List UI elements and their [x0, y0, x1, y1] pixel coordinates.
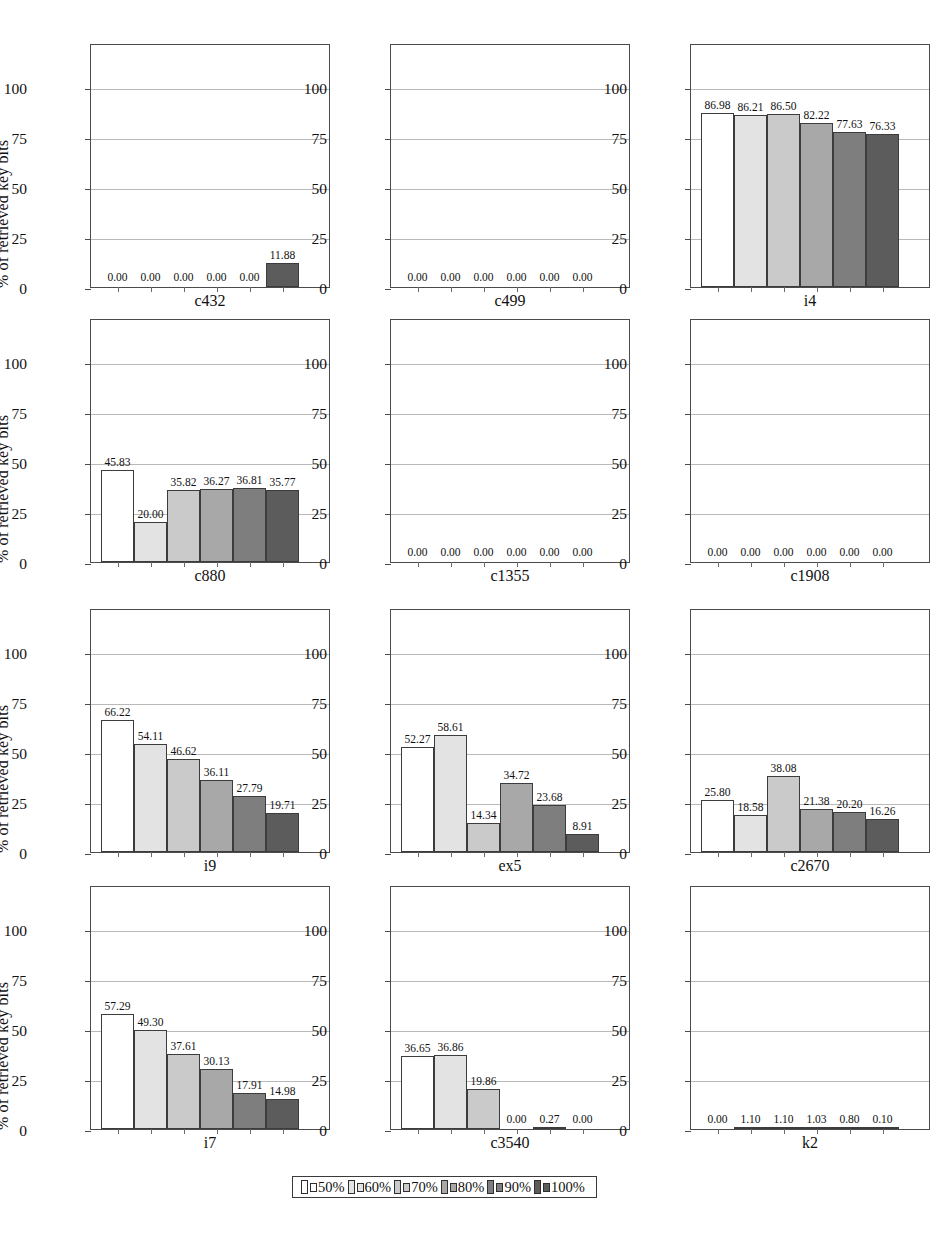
y-tick-mark	[85, 289, 91, 290]
chart-panel-i7: % of retrieved key bits025507510057.2949…	[0, 872, 300, 1162]
chart-panel-i4: 025507510086.9886.2186.5082.2277.6376.33…	[600, 30, 900, 320]
legend-swatch	[487, 1180, 494, 1194]
bar	[134, 744, 167, 852]
y-tick-label: 0	[0, 1122, 27, 1140]
legend-swatch-small	[496, 1183, 503, 1192]
chart-panel-ex5: 025507510052.2758.6114.3434.7223.688.91e…	[300, 595, 600, 885]
bar	[734, 115, 767, 287]
bar-value-label: 0.00	[206, 271, 226, 283]
legend-swatch-pair	[534, 1180, 550, 1194]
bar-value-label: 0.27	[539, 1113, 559, 1125]
bar-value-label: 0.00	[707, 546, 727, 558]
bar-value-label: 27.79	[237, 782, 263, 794]
bar-value-label: 17.91	[237, 1079, 263, 1091]
bar	[167, 1054, 200, 1129]
bar	[233, 488, 266, 562]
y-tick-label: 100	[0, 80, 27, 98]
y-tick-mark	[385, 854, 391, 855]
bar-value-label: 86.98	[705, 99, 731, 111]
y-tick-label: 25	[0, 230, 27, 248]
bar	[701, 800, 734, 852]
y-tick-label: 75	[283, 405, 327, 423]
y-tick-mark	[685, 564, 691, 565]
bar	[467, 1089, 500, 1129]
bar-value-label: 0.00	[239, 271, 259, 283]
bar	[533, 805, 566, 852]
bar-value-label: 82.22	[804, 109, 830, 121]
bar	[500, 783, 533, 852]
bar-value-label: 14.34	[471, 809, 497, 821]
bar	[200, 780, 233, 852]
legend-label: 50%	[318, 1180, 345, 1195]
bar-value-label: 0.80	[839, 1113, 859, 1125]
bar-value-label: 18.58	[738, 801, 764, 813]
y-tick-label: 25	[0, 1072, 27, 1090]
bar	[833, 132, 866, 287]
bar-series: 0.001.101.101.030.800.10	[691, 887, 929, 1129]
y-tick-label: 100	[583, 922, 627, 940]
y-tick-label: 100	[283, 922, 327, 940]
bar	[866, 134, 899, 287]
y-tick-label: 25	[583, 505, 627, 523]
bar	[134, 522, 167, 562]
y-tick-label: 0	[283, 280, 327, 298]
bar	[200, 1069, 233, 1129]
bar	[233, 796, 266, 852]
legend-entry-80: 80%	[441, 1180, 488, 1195]
y-tick-mark	[385, 1131, 391, 1132]
bar	[434, 735, 467, 852]
bar	[101, 1014, 134, 1129]
y-tick-label: 75	[583, 972, 627, 990]
bar-value-label: 25.80	[705, 786, 731, 798]
y-tick-label: 50	[283, 180, 327, 198]
bar	[401, 1056, 434, 1129]
legend-swatch-small	[403, 1183, 410, 1192]
y-tick-label: 25	[0, 505, 27, 523]
bar-value-label: 36.27	[204, 475, 230, 487]
y-tick-label: 25	[283, 1072, 327, 1090]
bar-value-label: 0.00	[140, 271, 160, 283]
chart-panel-c1908: 02550751000.000.000.000.000.000.00c1908	[600, 305, 900, 595]
bar-value-label: 30.13	[204, 1055, 230, 1067]
legend-swatch	[301, 1180, 308, 1194]
plot-area-c1908: 02550751000.000.000.000.000.000.00	[690, 319, 930, 563]
y-tick-mark	[385, 564, 391, 565]
y-tick-label: 50	[0, 180, 27, 198]
legend-swatch-small	[450, 1183, 457, 1192]
bar-value-label: 0.00	[506, 546, 526, 558]
bar-value-label: 0.00	[773, 546, 793, 558]
panel-title-c1908: c1908	[690, 567, 930, 585]
y-tick-label: 75	[583, 405, 627, 423]
bar-value-label: 57.29	[105, 1000, 131, 1012]
bar	[866, 819, 899, 852]
bar	[233, 1093, 266, 1129]
bar-value-label: 35.82	[171, 476, 197, 488]
y-tick-label: 75	[583, 695, 627, 713]
y-tick-label: 100	[283, 355, 327, 373]
legend-swatch-small	[310, 1183, 317, 1192]
bar-value-label: 86.21	[738, 101, 764, 113]
bar	[800, 123, 833, 287]
bar-value-label: 52.27	[405, 733, 431, 745]
bar-value-label: 0.00	[440, 271, 460, 283]
y-tick-label: 0	[283, 555, 327, 573]
y-tick-label: 25	[583, 230, 627, 248]
chart-panel-c499: 02550751000.000.000.000.000.000.00c499	[300, 30, 600, 320]
bar-value-label: 34.72	[504, 769, 530, 781]
y-tick-label: 0	[0, 280, 27, 298]
bar-value-label: 0.00	[440, 546, 460, 558]
y-tick-label: 0	[583, 845, 627, 863]
legend-entry-50: 50%	[301, 1180, 348, 1195]
y-tick-label: 25	[0, 795, 27, 813]
y-tick-label: 0	[583, 555, 627, 573]
y-tick-label: 50	[0, 1022, 27, 1040]
bar-value-label: 0.00	[473, 271, 493, 283]
legend-swatch-pair	[487, 1180, 503, 1194]
legend-label: 100%	[551, 1180, 585, 1195]
chart-panel-c432: % of retrieved key bits02550751000.000.0…	[0, 30, 300, 320]
y-tick-mark	[685, 289, 691, 290]
legend-label: 80%	[458, 1180, 485, 1195]
chart-panel-i9: % of retrieved key bits025507510066.2254…	[0, 595, 300, 885]
bar-value-label: 66.22	[105, 706, 131, 718]
